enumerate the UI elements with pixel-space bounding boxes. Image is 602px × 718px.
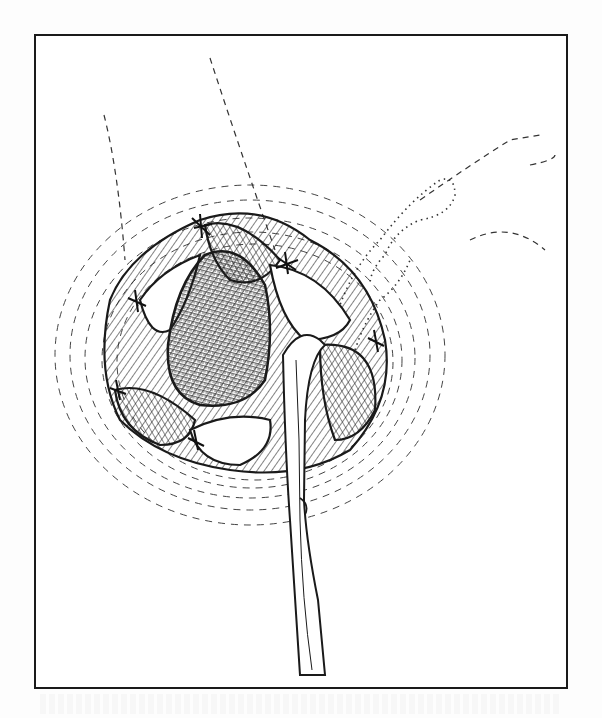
surgical-illustration: [0, 0, 602, 718]
illustration-page: [0, 0, 602, 718]
dashed-guide-lines: [104, 58, 555, 260]
reverse-page-bleed: [40, 694, 560, 714]
